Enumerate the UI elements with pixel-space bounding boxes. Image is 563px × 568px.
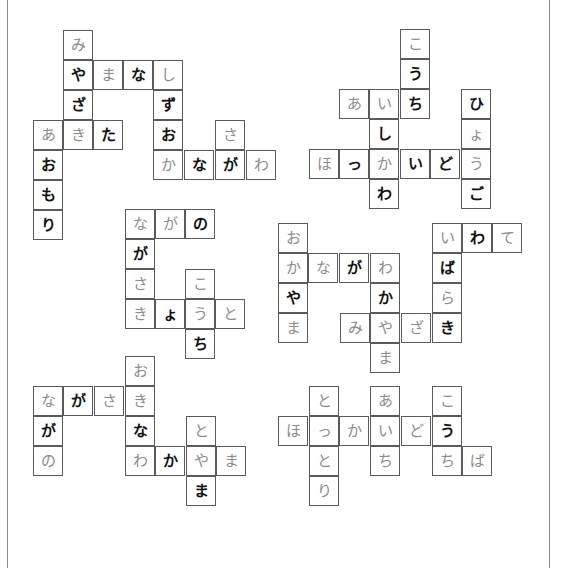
puzzle-cell[interactable]: っ [339,149,369,179]
puzzle-cell[interactable]: わ [462,223,492,253]
puzzle-cell[interactable]: わ [246,150,276,180]
puzzle-cell[interactable]: っ [309,416,339,446]
puzzle-cell[interactable]: あ [339,89,369,119]
puzzle-cell[interactable]: ま [216,446,246,476]
puzzle-cell[interactable]: て [492,223,522,253]
puzzle-cell[interactable]: と [309,386,339,416]
puzzle-cell[interactable]: り [33,210,63,240]
puzzle-cell[interactable]: か [153,150,183,180]
puzzle-cell[interactable]: が [155,209,185,239]
puzzle-cell[interactable]: あ [370,386,400,416]
puzzle-cell[interactable]: き [432,313,462,343]
puzzle-cell[interactable]: さ [94,386,124,416]
puzzle-cell[interactable]: お [125,356,155,386]
puzzle-cell[interactable]: わ [369,179,399,209]
puzzle-cell[interactable]: か [155,446,185,476]
puzzle-cell[interactable]: な [33,386,63,416]
puzzle-cell[interactable]: ほ [278,416,308,446]
puzzle-cell[interactable]: な [184,150,214,180]
puzzle-cell[interactable]: か [369,149,399,179]
cell-character: き [71,128,86,143]
cell-character: や [71,68,86,83]
puzzle-cell[interactable]: お [278,223,308,253]
crossword-puzzle: みやまなしざずあきたおさおかながわもりこうあいちひしょほっかいどうわごながのがさ… [0,0,563,568]
puzzle-cell[interactable]: ま [278,313,308,343]
puzzle-cell[interactable]: や [63,60,93,90]
puzzle-cell[interactable]: ば [432,253,462,283]
puzzle-cell[interactable]: ざ [63,90,93,120]
puzzle-cell[interactable]: ち [185,329,215,359]
puzzle-cell[interactable]: な [125,416,155,446]
puzzle-cell[interactable]: も [33,180,63,210]
puzzle-cell[interactable]: な [125,209,155,239]
puzzle-cell[interactable]: う [400,59,430,89]
puzzle-cell[interactable]: か [339,416,369,446]
puzzle-cell[interactable]: た [93,120,123,150]
puzzle-cell[interactable]: お [33,150,63,180]
cell-character: ば [440,261,455,276]
puzzle-cell[interactable]: な [123,60,153,90]
puzzle-cell[interactable]: が [339,253,369,283]
puzzle-cell[interactable]: ご [461,179,491,209]
puzzle-cell[interactable]: の [185,209,215,239]
puzzle-cell[interactable]: か [370,283,400,313]
puzzle-cell[interactable]: お [153,120,183,150]
puzzle-cell[interactable]: さ [125,269,155,299]
puzzle-cell[interactable]: と [186,416,216,446]
puzzle-cell[interactable]: き [125,299,155,329]
puzzle-cell[interactable]: り [309,476,339,506]
puzzle-cell[interactable]: や [370,313,400,343]
puzzle-cell[interactable]: の [33,446,63,476]
puzzle-cell[interactable]: み [63,30,93,60]
puzzle-cell[interactable]: さ [215,120,245,150]
puzzle-cell[interactable]: ら [432,283,462,313]
puzzle-cell[interactable]: ょ [155,299,185,329]
puzzle-cell[interactable]: い [400,149,430,179]
puzzle-cell[interactable]: う [432,416,462,446]
puzzle-cell[interactable]: し [153,60,183,90]
puzzle-cell[interactable]: あ [33,120,63,150]
puzzle-cell[interactable]: ま [93,60,123,90]
cell-character: ち [408,97,423,112]
puzzle-cell[interactable]: し [369,119,399,149]
cell-character: ど [438,157,453,172]
puzzle-cell[interactable]: ま [186,476,216,506]
puzzle-cell[interactable]: い [432,223,462,253]
puzzle-cell[interactable]: な [308,253,338,283]
puzzle-cell[interactable]: と [309,446,339,476]
puzzle-cell[interactable]: が [33,416,63,446]
puzzle-cell[interactable]: が [215,150,245,180]
puzzle-cell[interactable]: ひ [461,89,491,119]
puzzle-cell[interactable]: う [185,299,215,329]
puzzle-cell[interactable]: ざ [401,313,431,343]
puzzle-cell[interactable]: わ [370,253,400,283]
puzzle-cell[interactable]: い [370,416,400,446]
puzzle-cell[interactable]: や [186,446,216,476]
puzzle-cell[interactable]: ど [401,416,431,446]
cell-character: や [378,321,393,336]
cell-character: う [469,157,484,172]
puzzle-cell[interactable]: ま [370,343,400,373]
puzzle-cell[interactable]: と [215,299,245,329]
puzzle-cell[interactable]: こ [432,386,462,416]
puzzle-cell[interactable]: か [278,253,308,283]
puzzle-cell[interactable]: ち [400,89,430,119]
puzzle-cell[interactable]: き [125,386,155,416]
puzzle-cell[interactable]: こ [400,29,430,59]
puzzle-cell[interactable]: う [461,149,491,179]
puzzle-cell[interactable]: が [125,239,155,269]
puzzle-cell[interactable]: い [369,89,399,119]
puzzle-cell[interactable]: ち [432,446,462,476]
puzzle-cell[interactable]: き [63,120,93,150]
puzzle-cell[interactable]: ど [430,149,460,179]
puzzle-cell[interactable]: ち [370,446,400,476]
puzzle-cell[interactable]: や [278,283,308,313]
puzzle-cell[interactable]: ょ [461,119,491,149]
puzzle-cell[interactable]: み [340,313,370,343]
puzzle-cell[interactable]: わ [125,446,155,476]
puzzle-cell[interactable]: こ [185,269,215,299]
puzzle-cell[interactable]: ば [462,446,492,476]
puzzle-cell[interactable]: ほ [309,149,339,179]
puzzle-cell[interactable]: ず [153,90,183,120]
puzzle-cell[interactable]: が [63,386,93,416]
